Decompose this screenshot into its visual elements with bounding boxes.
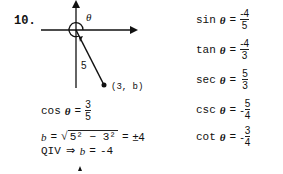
radical: 5² − 3² (68, 130, 118, 143)
sin-answer: sinθ= -45 (196, 8, 249, 31)
hypotenuse-label: 5 (81, 60, 87, 71)
cot-answer: cotθ= - 34 (196, 125, 250, 148)
b-equation: b = √5² − 3² = ±4 (41, 129, 145, 144)
cos-equation: cos θ = 35 (41, 99, 91, 122)
next-arrow-icon (78, 166, 82, 171)
fraction: 35 (85, 99, 91, 122)
point-marker-icon (102, 83, 107, 88)
y-axis-arrow-icon (72, 0, 80, 8)
problem-number: 10. (14, 14, 36, 28)
unit-circle-diagram (40, 0, 155, 95)
csc-answer: cscθ= - 54 (196, 98, 250, 121)
sec-answer: secθ= 53 (196, 68, 248, 91)
tan-answer: tanθ= -43 (196, 38, 249, 61)
qiv-conclusion: QIV ⇒ b = -4 (41, 144, 113, 157)
point-label: (3, b) (111, 82, 143, 92)
angle-label: θ (86, 11, 91, 23)
x-axis-arrow-icon (130, 26, 138, 34)
